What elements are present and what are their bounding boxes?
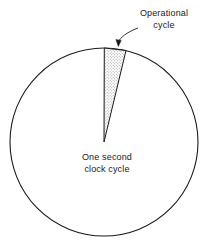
figure-container: Operational cycle One second clock cycle [0,0,215,251]
arrowhead-icon [116,40,121,47]
clock-cycle-label-line2: clock cycle [84,164,129,174]
clock-cycle-diagram: Operational cycle One second clock cycle [0,0,215,251]
operational-cycle-label-line1: Operational [140,8,188,18]
operational-cycle-label-line2: cycle [153,20,174,30]
leader-line [119,28,138,41]
clock-cycle-label-line1: One second [82,152,132,162]
